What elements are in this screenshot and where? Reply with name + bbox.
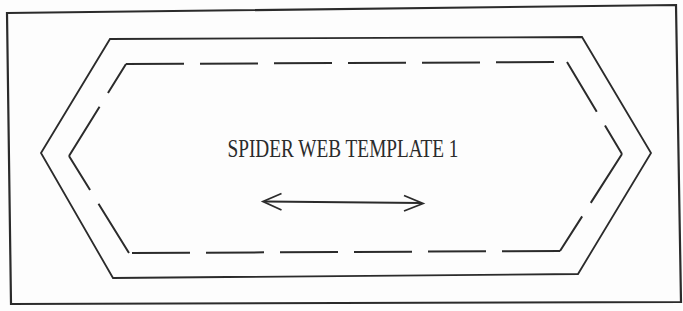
dashed-edge-right-upper xyxy=(567,62,622,154)
spider-web-template-diagram: SPIDER WEB TEMPLATE 1 xyxy=(0,0,683,311)
template-title: SPIDER WEB TEMPLATE 1 xyxy=(228,134,459,163)
dashed-edge-top xyxy=(126,62,567,64)
dashed-edge-right-lower xyxy=(560,154,622,251)
dashed-edge-bottom xyxy=(129,251,560,253)
scanned-template-page: SPIDER WEB TEMPLATE 1 xyxy=(0,0,683,311)
double-arrow-shaft xyxy=(265,202,421,204)
dashed-edge-left-lower xyxy=(69,156,129,253)
dashed-edge-left-upper xyxy=(69,64,126,156)
double-arrow-icon xyxy=(263,194,423,212)
